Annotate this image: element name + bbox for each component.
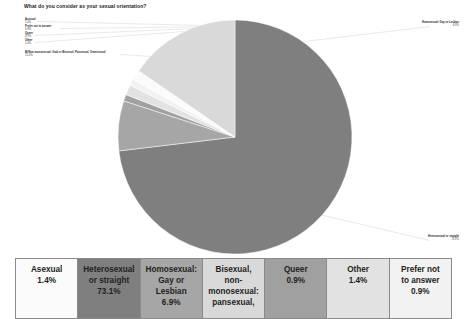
legend-cell-line: 6.9%	[162, 297, 181, 308]
legend-cell-line: 0.9%	[411, 286, 430, 297]
legend-cell-line: Other	[347, 264, 369, 275]
legend-cell-line: non-	[225, 275, 243, 286]
callout-label: Bi/Non-monosexual: fluid or Bisexual, Pa…	[25, 51, 105, 54]
legend-cell-line: pansexual,	[212, 297, 254, 308]
legend-cell-line: Bisexual,	[216, 264, 252, 275]
legend-cell-line: 73.1%	[97, 286, 120, 297]
callout-asexual: Asexual 1.4%	[25, 18, 35, 25]
legend-cell-line: Gay or	[158, 275, 184, 286]
legend-cell-line: Queer	[284, 264, 308, 275]
callout-other: Other 1.4%	[25, 39, 32, 46]
legend-table: Asexual1.4%Heterosexualor straight73.1%H…	[15, 258, 452, 319]
legend-cell-line: 0.9%	[286, 275, 305, 286]
legend-cell-line: to answer	[401, 275, 439, 286]
callout-queer: Queer 0.9%	[25, 32, 33, 39]
legend-cell: Asexual1.4%	[16, 259, 78, 318]
legend-cell: Other1.4%	[327, 259, 389, 318]
legend-cell-line: Asexual	[31, 264, 62, 275]
legend-cell: Queer0.9%	[265, 259, 327, 318]
pie-slices	[118, 20, 352, 254]
legend-cell: Homosexual:Gay orLesbian6.9%	[141, 259, 203, 318]
legend-cell: Heterosexualor straight73.1%	[78, 259, 140, 318]
legend-cell-line: 1.4%	[37, 275, 56, 286]
callout-value: 1.4%	[25, 42, 32, 45]
legend-cell-line: monosexual:	[208, 286, 259, 297]
legend-cell-line: Prefer not	[401, 264, 440, 275]
callout-value: 15.4%	[25, 54, 105, 57]
legend-cell: Bisexual,non-monosexual:pansexual,	[203, 259, 265, 318]
legend-cell-line: Lesbian	[156, 286, 187, 297]
legend-cell: Prefer notto answer0.9%	[390, 259, 451, 318]
legend-cell-line: Homosexual:	[145, 264, 196, 275]
legend-cell-line: 1.4%	[349, 275, 368, 286]
legend-cell-line: Heterosexual	[83, 264, 134, 275]
callout-heterosexual: Heterosexual or straight 73.1%	[428, 235, 459, 242]
legend-cell-line: or straight	[89, 275, 130, 286]
callout-value: 73.1%	[428, 238, 459, 241]
slide-canvas: What do you consider as your sexual orie…	[0, 0, 467, 319]
callout-value: 6.9%	[422, 24, 459, 27]
callout-bisexual: Bi/Non-monosexual: fluid or Bisexual, Pa…	[25, 51, 105, 58]
callout-homosexual: Homosexual: Gay or Lesbian 6.9%	[422, 21, 459, 28]
callout-prefer-not-to-answer: Prefer not to answer 0.9%	[25, 25, 51, 32]
